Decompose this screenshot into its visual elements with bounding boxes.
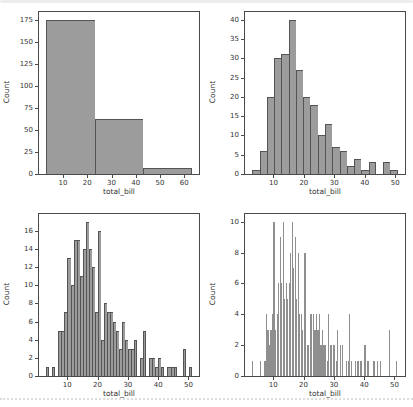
histogram-bar bbox=[143, 168, 191, 174]
x-tick-mark bbox=[273, 175, 274, 178]
x-tick-label: 10 bbox=[261, 179, 285, 187]
x-tick-mark bbox=[365, 175, 366, 178]
x-tick-label: 60 bbox=[172, 179, 196, 187]
histogram-bar bbox=[95, 119, 143, 174]
x-tick-label: 50 bbox=[148, 179, 172, 187]
x-tick-label: 20 bbox=[292, 179, 316, 187]
y-tick-mark bbox=[35, 303, 38, 304]
y-axis-label: Count bbox=[2, 63, 12, 121]
y-tick-label: 0 bbox=[213, 372, 239, 380]
y-tick-mark bbox=[241, 222, 244, 223]
histogram-bar bbox=[390, 170, 397, 174]
histogram-bar bbox=[396, 361, 397, 376]
x-tick-mark bbox=[364, 377, 365, 380]
histogram-bar bbox=[274, 58, 281, 174]
histogram-bar bbox=[332, 147, 339, 174]
histogram-bar bbox=[303, 97, 310, 174]
y-tick-label: 6 bbox=[213, 279, 239, 287]
histogram-bar bbox=[367, 361, 368, 376]
histogram-bar bbox=[260, 151, 267, 174]
y-tick-label: 0 bbox=[7, 170, 33, 178]
y-tick-mark bbox=[241, 376, 244, 377]
y-tick-mark bbox=[241, 174, 244, 175]
y-tick-label: 10 bbox=[7, 281, 33, 289]
x-tick-label: 20 bbox=[292, 381, 316, 389]
x-axis-label: total_bill bbox=[244, 389, 406, 398]
y-tick-mark bbox=[241, 39, 244, 40]
subplot-bottom-left: Count total_bill 02468101214161020304050 bbox=[1, 205, 207, 401]
plot-area-top-left bbox=[38, 11, 200, 175]
histogram-bar bbox=[252, 170, 259, 174]
y-tick-label: 4 bbox=[7, 336, 33, 344]
x-tick-label: 20 bbox=[86, 381, 110, 389]
x-tick-mark bbox=[304, 377, 305, 380]
histogram-bar bbox=[389, 330, 390, 376]
histogram-bar bbox=[351, 361, 352, 376]
y-tick-mark bbox=[35, 231, 38, 232]
x-tick-mark bbox=[273, 377, 274, 380]
x-tick-mark bbox=[112, 175, 113, 178]
x-tick-label: 50 bbox=[176, 381, 200, 389]
histogram-bar bbox=[252, 361, 253, 376]
y-tick-mark bbox=[241, 20, 244, 21]
y-tick-label: 0 bbox=[7, 372, 33, 380]
y-tick-mark bbox=[241, 283, 244, 284]
y-tick-mark bbox=[35, 340, 38, 341]
y-tick-mark bbox=[241, 78, 244, 79]
y-tick-label: 8 bbox=[213, 249, 239, 257]
y-tick-mark bbox=[241, 97, 244, 98]
y-tick-label: 35 bbox=[213, 35, 239, 43]
x-tick-mark bbox=[67, 377, 68, 380]
y-tick-label: 15 bbox=[213, 112, 239, 120]
x-tick-mark bbox=[395, 175, 396, 178]
y-tick-label: 5 bbox=[213, 151, 239, 159]
histogram-bar bbox=[340, 151, 347, 174]
histogram-bar bbox=[364, 345, 365, 376]
figure-canvas: Count total_bill 02550751001251501751020… bbox=[0, 0, 413, 407]
histogram-bar bbox=[377, 361, 378, 376]
y-tick-mark bbox=[35, 130, 38, 131]
y-tick-label: 30 bbox=[213, 54, 239, 62]
histogram-bar bbox=[373, 361, 374, 376]
x-tick-label: 10 bbox=[51, 179, 75, 187]
histogram-bar bbox=[296, 70, 303, 174]
histogram-bar bbox=[189, 367, 192, 376]
y-tick-mark bbox=[241, 345, 244, 346]
y-axis-label: Count bbox=[2, 265, 12, 323]
y-tick-label: 50 bbox=[7, 126, 33, 134]
histogram-bar bbox=[361, 170, 368, 174]
x-tick-label: 40 bbox=[146, 381, 170, 389]
subplot-top-right: Count total_bill 05101520253035401020304… bbox=[207, 3, 413, 199]
y-tick-label: 14 bbox=[7, 245, 33, 253]
y-tick-mark bbox=[35, 358, 38, 359]
histogram-bar bbox=[260, 361, 261, 376]
histogram-bar bbox=[143, 331, 146, 376]
x-tick-mark bbox=[98, 377, 99, 380]
y-tick-mark bbox=[241, 253, 244, 254]
x-tick-mark bbox=[136, 175, 137, 178]
y-tick-mark bbox=[35, 152, 38, 153]
histogram-bar bbox=[174, 367, 177, 376]
subplot-top-left: Count total_bill 02550751001251501751020… bbox=[1, 3, 207, 199]
x-tick-label: 30 bbox=[100, 179, 124, 187]
y-tick-mark bbox=[35, 249, 38, 250]
histogram-bar bbox=[183, 349, 186, 376]
y-tick-label: 2 bbox=[213, 341, 239, 349]
histogram-bar bbox=[361, 361, 362, 376]
x-tick-label: 30 bbox=[116, 381, 140, 389]
x-tick-mark bbox=[304, 175, 305, 178]
y-tick-label: 20 bbox=[213, 93, 239, 101]
y-tick-mark bbox=[35, 285, 38, 286]
y-tick-label: 12 bbox=[7, 263, 33, 271]
y-tick-mark bbox=[35, 42, 38, 43]
x-tick-mark bbox=[334, 377, 335, 380]
x-axis-label: total_bill bbox=[244, 187, 406, 196]
y-tick-mark bbox=[241, 116, 244, 117]
x-tick-mark bbox=[128, 377, 129, 380]
y-tick-mark bbox=[241, 58, 244, 59]
x-tick-label: 40 bbox=[124, 179, 148, 187]
y-tick-mark bbox=[35, 86, 38, 87]
y-tick-mark bbox=[241, 314, 244, 315]
histogram-bar bbox=[267, 97, 274, 174]
y-tick-label: 150 bbox=[7, 38, 33, 46]
